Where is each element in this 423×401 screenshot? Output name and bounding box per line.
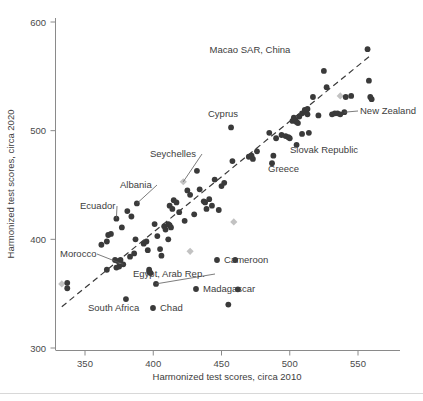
x-tick-label: 500 [282, 358, 298, 369]
data-point [287, 135, 293, 141]
data-point [194, 168, 200, 174]
data-point [64, 285, 70, 291]
data-point [176, 209, 182, 215]
data-point [310, 94, 316, 100]
bottom-divider [0, 393, 423, 394]
data-point [305, 111, 311, 117]
data-point [64, 280, 70, 286]
data-point [133, 236, 139, 242]
data-point [228, 125, 234, 131]
data-point [182, 218, 188, 224]
annotation-labels: Macao SAR, ChinaNew ZealandCyprusSlovak … [60, 44, 416, 313]
annotation-label: Ecuador [80, 200, 115, 211]
data-point [273, 135, 279, 141]
data-point [98, 242, 104, 248]
data-point [131, 251, 137, 257]
data-point [305, 106, 311, 112]
data-point [165, 236, 171, 242]
data-point [168, 224, 174, 230]
y-tick-label: 300 [30, 343, 46, 354]
data-point [365, 46, 371, 52]
y-tick-label: 500 [30, 125, 46, 136]
data-point [197, 186, 203, 192]
data-point [216, 207, 222, 213]
data-point-gray [230, 218, 237, 225]
annotation-label: Morocco [60, 248, 96, 259]
annotation-label: New Zealand [360, 105, 416, 116]
annotation-label: Slovak Republic [290, 144, 358, 155]
data-point [343, 94, 349, 100]
data-point [119, 224, 125, 230]
data-point [144, 239, 150, 245]
data-point [295, 120, 301, 126]
data-point [230, 158, 236, 164]
data-point [129, 214, 135, 220]
data-point-gray [337, 92, 344, 99]
data-point [174, 199, 180, 205]
data-point [104, 239, 110, 245]
annotation-label: Cameroon [224, 254, 268, 265]
annotation-label: Madagascar [203, 283, 255, 294]
y-tick-label: 400 [30, 234, 46, 245]
data-point-gray [58, 280, 65, 287]
data-point [204, 206, 210, 212]
annotation-label: Greece [268, 163, 299, 174]
data-point [209, 203, 215, 209]
data-point [159, 253, 165, 259]
data-point [206, 196, 212, 202]
data-point-labeled [214, 257, 220, 263]
x-axis-title: Harmonized test scores, circa 2010 [153, 371, 302, 382]
data-point-labeled [193, 286, 199, 292]
chart-canvas: 350400450500550300400500600 Macao SAR, C… [0, 0, 423, 401]
data-point [187, 192, 193, 198]
data-point [113, 265, 119, 271]
data-point [324, 84, 330, 90]
data-point [154, 233, 160, 239]
x-tick-label: 450 [214, 358, 230, 369]
scatter-plot-figure: 350400450500550300400500600 Macao SAR, C… [0, 0, 423, 401]
data-point [316, 113, 322, 119]
data-point [348, 93, 354, 99]
data-point [266, 130, 272, 136]
data-point [152, 221, 158, 227]
annotation-label: Seychelles [150, 148, 196, 159]
annotation-label: Albania [120, 179, 152, 190]
y-axis-title: Harmonized test scores, circa 2020 [5, 110, 16, 259]
data-point [163, 227, 169, 233]
data-point [191, 211, 197, 217]
annotation-label: Chad [160, 302, 183, 313]
data-point [366, 78, 372, 84]
data-point [145, 247, 151, 253]
data-point [225, 302, 231, 308]
axis-tick-labels: 350400450500550300400500600 [30, 17, 366, 370]
data-point [124, 208, 130, 214]
data-point [221, 180, 227, 186]
annotation-label: Egypt, Arab Rep. [133, 268, 205, 279]
data-point [212, 177, 218, 183]
x-tick-label: 550 [350, 358, 366, 369]
data-point-gray [187, 248, 194, 255]
y-tick-label: 600 [30, 17, 46, 28]
data-point [104, 267, 110, 273]
annotation-label: Macao SAR, China [210, 44, 292, 55]
data-point-labeled [150, 305, 156, 311]
data-point [270, 153, 276, 159]
data-point [321, 68, 327, 74]
annotation-label: South Africa [88, 302, 140, 313]
data-point [157, 246, 163, 252]
data-point [306, 130, 312, 136]
x-tick-label: 350 [77, 358, 93, 369]
data-point [299, 131, 305, 137]
data-point [369, 96, 375, 102]
data-point [108, 231, 114, 237]
annotation-label: Cyprus [208, 108, 238, 119]
x-tick-label: 400 [145, 358, 161, 369]
data-point [250, 156, 256, 162]
data-point [169, 206, 175, 212]
data-point [254, 148, 260, 154]
